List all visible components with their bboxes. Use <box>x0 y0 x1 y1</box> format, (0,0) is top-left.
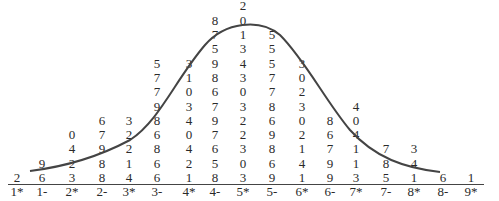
leaf-digit: 4 <box>344 100 368 114</box>
leaf-digit: 0 <box>177 85 201 99</box>
leaf-digit: 3 <box>177 57 201 71</box>
leaf-digit: 4 <box>177 114 201 128</box>
leaf-digit: 3 <box>290 100 314 114</box>
leaf-digit: 6 <box>431 171 455 185</box>
leaf-digit: 5 <box>203 42 227 56</box>
leaf-digit: 7 <box>145 85 169 99</box>
leaf-digit: 2 <box>290 85 314 99</box>
leaf-digit: 4 <box>177 142 201 156</box>
leaf-digit: 2 <box>5 171 29 185</box>
leaf-digit: 6 <box>145 171 169 185</box>
leaf-digit: 6 <box>30 171 54 185</box>
leaf-digit: 4 <box>402 157 426 171</box>
leaf-digit: 6 <box>145 128 169 142</box>
leaf-digit: 6 <box>260 157 284 171</box>
leaf-digit: 1 <box>231 28 255 42</box>
leaf-digit: 7 <box>374 142 398 156</box>
leaf-digit: 3 <box>60 171 84 185</box>
leaf-digit: 9 <box>260 128 284 142</box>
leaf-digit: 1 <box>344 157 368 171</box>
leaf-digit: 0 <box>231 157 255 171</box>
leaf-digit: 1 <box>117 157 141 171</box>
leaf-digit: 3 <box>231 171 255 185</box>
leaf-digit: 6 <box>203 85 227 99</box>
leaf-digit: 6 <box>203 142 227 156</box>
leaf-digit: 1 <box>290 171 314 185</box>
leaf-digit: 9 <box>203 57 227 71</box>
stem-label: 3- <box>142 185 172 199</box>
leaf-digit: 9 <box>90 142 114 156</box>
leaf-digit: 3 <box>177 100 201 114</box>
leaf-digit: 5 <box>145 57 169 71</box>
leaf-digit: 2 <box>231 0 255 13</box>
leaf-digit: 9 <box>203 114 227 128</box>
leaf-digit: 1 <box>402 171 426 185</box>
leaf-digit: 0 <box>344 114 368 128</box>
leaf-digit: 1 <box>177 71 201 85</box>
leaf-digit: 7 <box>203 28 227 42</box>
leaf-digit: 4 <box>344 128 368 142</box>
leaf-digit: 4 <box>290 157 314 171</box>
leaf-digit: 7 <box>260 71 284 85</box>
leaf-digit: 7 <box>90 128 114 142</box>
stem-label: 2- <box>87 185 117 199</box>
leaf-digit: 2 <box>231 128 255 142</box>
leaf-digit: 8 <box>90 157 114 171</box>
leaf-digit: 1 <box>290 142 314 156</box>
leaf-digit: 1 <box>459 171 483 185</box>
stem-label: 8* <box>399 185 429 199</box>
leaf-digit: 8 <box>374 157 398 171</box>
stem-label: 5* <box>228 185 258 199</box>
leaf-digit: 6 <box>318 128 342 142</box>
leaf-digit: 9 <box>145 100 169 114</box>
stem-label: 2* <box>57 185 87 199</box>
leaf-digit: 8 <box>145 142 169 156</box>
leaf-digit: 0 <box>290 114 314 128</box>
leaf-digit: 2 <box>60 157 84 171</box>
leaf-digit: 9 <box>318 157 342 171</box>
leaf-digit: 3 <box>231 42 255 56</box>
leaf-digit: 5 <box>374 171 398 185</box>
leaf-digit: 3 <box>231 71 255 85</box>
leaf-digit: 9 <box>30 157 54 171</box>
stem-label: 7* <box>341 185 371 199</box>
leaf-digit: 5 <box>260 57 284 71</box>
leaf-digit: 2 <box>231 114 255 128</box>
stem-label: 8- <box>428 185 458 199</box>
leaf-digit: 8 <box>203 14 227 28</box>
leaf-digit: 6 <box>145 157 169 171</box>
stem-label: 7- <box>371 185 401 199</box>
leaf-digit: 8 <box>260 142 284 156</box>
leaf-digit: 2 <box>117 142 141 156</box>
leaf-digit: 7 <box>145 71 169 85</box>
stem-label: 6* <box>287 185 317 199</box>
leaf-digit: 5 <box>203 157 227 171</box>
leaf-digit: 4 <box>60 142 84 156</box>
leaf-digit: 0 <box>231 14 255 28</box>
leaf-digit: 0 <box>60 128 84 142</box>
leaf-digit: 5 <box>260 42 284 56</box>
leaf-digit: 1 <box>177 171 201 185</box>
leaf-digit: 5 <box>260 28 284 42</box>
stem-label: 5- <box>257 185 287 199</box>
leaf-digit: 1 <box>344 142 368 156</box>
leaf-digit: 8 <box>90 171 114 185</box>
leaf-digit: 8 <box>318 114 342 128</box>
leaf-digit: 3 <box>290 57 314 71</box>
leaf-digit: 8 <box>260 100 284 114</box>
stem-label: 3* <box>114 185 144 199</box>
stem-and-leaf-chart: 2693240889764122366868977512404301385679… <box>0 0 499 201</box>
leaf-digit: 3 <box>117 114 141 128</box>
leaf-digit: 9 <box>318 171 342 185</box>
leaf-digit: 3 <box>402 142 426 156</box>
leaf-digit: 0 <box>177 128 201 142</box>
leaf-digit: 0 <box>290 71 314 85</box>
leaf-digit: 8 <box>145 114 169 128</box>
leaf-digit: 8 <box>203 71 227 85</box>
leaf-digit: 3 <box>231 100 255 114</box>
stem-label: 1- <box>27 185 57 199</box>
leaf-digit: 6 <box>90 114 114 128</box>
leaf-digit: 2 <box>117 128 141 142</box>
stem-label: 4- <box>200 185 230 199</box>
leaf-digit: 4 <box>117 171 141 185</box>
